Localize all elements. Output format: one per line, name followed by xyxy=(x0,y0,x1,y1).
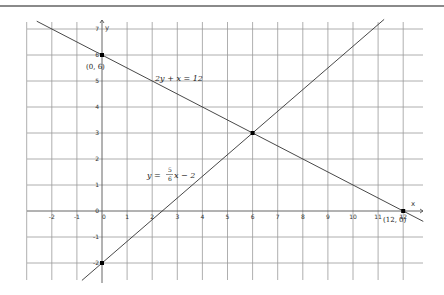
point-marker xyxy=(100,261,104,265)
y-tick-label: 4 xyxy=(95,103,99,110)
y-tick-label: 7 xyxy=(95,25,99,32)
x-tick-label: 10 xyxy=(349,213,357,220)
point-marker xyxy=(401,209,405,213)
y-tick-label: 3 xyxy=(95,129,99,136)
svg-text:5: 5 xyxy=(168,166,172,173)
x-tick-label: 3 xyxy=(175,213,179,220)
y-tick-label: 2 xyxy=(95,155,99,162)
svg-text:x − 2: x − 2 xyxy=(174,171,195,180)
x-tick-label: 4 xyxy=(200,213,204,220)
x-tick-label: 0 xyxy=(102,213,106,220)
coordinate-plane: -2-10123456789101112-2-101234567 (0, 6) … xyxy=(0,0,444,295)
svg-text:y =: y = xyxy=(146,171,161,180)
point-label-0-6: (0, 6) xyxy=(86,63,105,71)
y-tick-label: -2 xyxy=(93,259,99,266)
point-marker xyxy=(251,131,255,135)
x-tick-label: 11 xyxy=(374,213,382,220)
y-tick-label: 5 xyxy=(95,77,99,84)
y-axis-label: y xyxy=(105,24,109,32)
x-tick-label: -1 xyxy=(74,213,80,220)
y-tick-label: 0 xyxy=(95,207,99,214)
equation-label-line1: 2y + x = 12 xyxy=(154,74,203,83)
x-tick-label: 5 xyxy=(226,213,230,220)
axes xyxy=(27,20,423,283)
plotted-lines xyxy=(37,19,424,280)
grid xyxy=(27,22,423,280)
x-tick-label: 7 xyxy=(276,213,280,220)
x-tick-label: 8 xyxy=(301,213,305,220)
x-axis-label: x xyxy=(411,200,415,208)
x-tick-label: 6 xyxy=(251,213,255,220)
svg-text:6: 6 xyxy=(168,175,172,182)
equation-label-line2: y = 5 6 x − 2 xyxy=(146,166,195,182)
point-marker xyxy=(100,53,104,57)
x-tick-label: 9 xyxy=(326,213,330,220)
tick-labels: -2-10123456789101112-2-101234567 xyxy=(49,25,407,266)
y-tick-label: 1 xyxy=(95,181,99,188)
line-series-1 xyxy=(37,21,424,221)
x-tick-label: 1 xyxy=(125,213,129,220)
x-tick-label: -2 xyxy=(49,213,55,220)
y-tick-label: -1 xyxy=(93,233,99,240)
point-label-12-0: (12, 0) xyxy=(383,216,407,224)
